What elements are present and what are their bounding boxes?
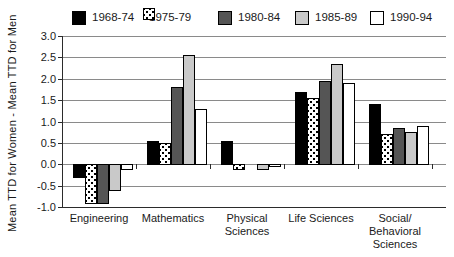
y-tick-label: -1.0 — [20, 201, 56, 213]
legend-item-1990-94: 1990-94 — [370, 8, 432, 22]
category-label-Life Sciences: Life Sciences — [279, 212, 363, 225]
bar-1980-84-Social/Behavioral Sciences — [393, 128, 405, 165]
bar-1975-79-Life Sciences — [307, 98, 319, 165]
bar-1975-79-Social/Behavioral Sciences — [381, 134, 393, 165]
y-tick-label: 0.0 — [20, 158, 56, 170]
gridline — [62, 57, 446, 58]
gridline — [62, 36, 446, 37]
category-label-line: Life Sciences — [279, 212, 363, 225]
legend-item-1985-89: 1985-89 — [295, 8, 357, 22]
bar-1975-79-Engineering — [85, 164, 97, 203]
bar-1990-94-Physical Sciences — [269, 164, 281, 167]
gridline — [62, 122, 446, 123]
bar-1985-89-Engineering — [109, 164, 121, 191]
gridline — [62, 79, 446, 80]
bar-1990-94-Mathematics — [195, 109, 207, 166]
bar-1968-74-Physical Sciences — [221, 141, 233, 166]
legend-label: 1975-79 — [149, 11, 191, 24]
bar-chart: 1968-741975-791980-841985-891990-94 Mean… — [0, 0, 454, 257]
y-tick-label: 3.0 — [20, 30, 56, 42]
category-label-line: Mathematics — [131, 212, 215, 225]
category-label-Engineering: Engineering — [57, 212, 141, 225]
category-boundary-tick — [358, 164, 359, 169]
category-boundary-tick — [210, 164, 211, 169]
bar-1985-89-Mathematics — [183, 55, 195, 165]
y-axis-line — [62, 36, 63, 208]
legend-swatch-icon — [370, 11, 384, 25]
bar-1980-84-Engineering — [97, 164, 109, 203]
category-label-line: Sciences — [205, 225, 289, 238]
legend-label: 1990-94 — [390, 11, 432, 24]
bar-1968-74-Life Sciences — [295, 92, 307, 166]
category-boundary-tick — [136, 164, 137, 169]
legend-swatch-icon — [143, 8, 155, 20]
y-tick-label: 1.0 — [20, 116, 56, 128]
y-axis-title: Mean TTD for Women - Mean TTD for Men — [6, 14, 18, 232]
category-label-line: Behavioral — [353, 225, 437, 238]
legend-swatch-icon — [218, 11, 232, 25]
gridline — [62, 207, 446, 208]
legend-label: 1968-74 — [92, 11, 134, 24]
legend-label: 1985-89 — [315, 11, 357, 24]
legend-swatch-icon — [295, 11, 309, 25]
bar-1975-79-Physical Sciences — [233, 164, 245, 169]
bar-1968-74-Social/Behavioral Sciences — [369, 104, 381, 165]
category-boundary-tick — [432, 164, 433, 169]
y-tick-label: 0.5 — [20, 137, 56, 149]
category-label-line: Physical — [205, 212, 289, 225]
y-tick-label: 1.5 — [20, 94, 56, 106]
bar-1985-89-Physical Sciences — [257, 164, 269, 169]
legend-item-1975-79: 1975-79 — [143, 8, 191, 22]
category-label-Physical Sciences: PhysicalSciences — [205, 212, 289, 238]
y-tick-label: 2.5 — [20, 51, 56, 63]
bar-1975-79-Mathematics — [159, 143, 171, 165]
gridline — [62, 100, 446, 101]
category-label-Mathematics: Mathematics — [131, 212, 215, 225]
bar-1985-89-Social/Behavioral Sciences — [405, 132, 417, 165]
category-label-line: Sciences — [353, 238, 437, 251]
legend-item-1980-84: 1980-84 — [218, 8, 280, 22]
legend-item-1968-74: 1968-74 — [72, 8, 134, 22]
bar-1968-74-Mathematics — [147, 141, 159, 166]
legend-label: 1980-84 — [238, 11, 280, 24]
bar-1990-94-Social/Behavioral Sciences — [417, 126, 429, 165]
legend-swatch-icon — [72, 11, 86, 25]
y-tick-label: 2.0 — [20, 73, 56, 85]
bar-1980-84-Mathematics — [171, 87, 183, 165]
bar-1990-94-Life Sciences — [343, 83, 355, 165]
bar-1968-74-Engineering — [73, 164, 85, 178]
category-label-line: Engineering — [57, 212, 141, 225]
bar-1980-84-Life Sciences — [319, 81, 331, 165]
category-boundary-tick — [284, 164, 285, 169]
bar-1990-94-Engineering — [121, 164, 133, 169]
bar-1985-89-Life Sciences — [331, 64, 343, 165]
category-label-Social/Behavioral Sciences: Social/BehavioralSciences — [353, 212, 437, 251]
y-tick-label: -0.5 — [20, 180, 56, 192]
category-label-line: Social/ — [353, 212, 437, 225]
